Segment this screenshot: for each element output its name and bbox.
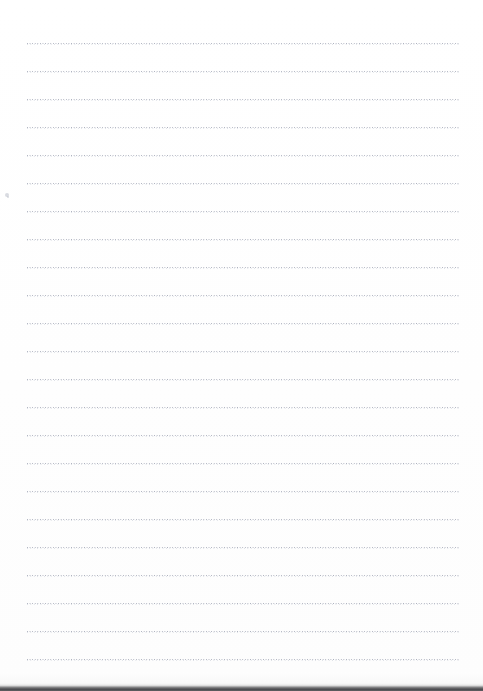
ruled-line [27, 575, 459, 578]
ruled-line [27, 519, 459, 522]
ruled-line [27, 379, 459, 382]
ruled-line [27, 491, 459, 494]
ruled-line [27, 295, 459, 298]
scanned-page [0, 0, 483, 691]
scan-speck [7, 196, 9, 198]
ruled-line [27, 155, 459, 158]
ruled-lines-layer [0, 0, 483, 691]
ruled-line [27, 99, 459, 102]
ruled-line [27, 323, 459, 326]
ruled-line [27, 43, 459, 46]
ruled-line [27, 351, 459, 354]
ruled-line [27, 71, 459, 74]
ruled-line [27, 631, 459, 634]
ruled-line [27, 659, 459, 662]
ruled-line [27, 547, 459, 550]
scan-edge-highlight [0, 673, 483, 683]
ruled-line [27, 463, 459, 466]
ruled-line [27, 435, 459, 438]
ruled-line [27, 267, 459, 270]
ruled-line [27, 211, 459, 214]
ruled-line [27, 603, 459, 606]
ruled-line [27, 127, 459, 130]
scan-edge-shadow [0, 683, 483, 691]
ruled-line [27, 183, 459, 186]
ruled-line [27, 239, 459, 242]
ruled-line [27, 407, 459, 410]
